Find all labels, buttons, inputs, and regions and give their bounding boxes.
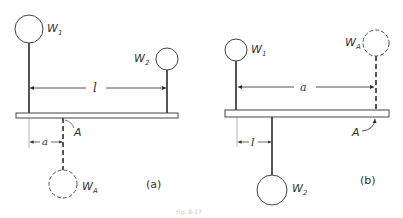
weight-circle-wa-b-dashed — [363, 30, 389, 56]
panel-label-a: (a) — [146, 178, 161, 191]
beam-b — [225, 110, 389, 117]
panel-label-b: (b) — [360, 174, 376, 187]
mass-wa-b: WA — [345, 30, 389, 110]
dim-label-l-b: l — [251, 136, 255, 149]
mass-w2: W2 — [134, 48, 178, 113]
dimension-l: l — [30, 81, 166, 95]
weight-circle-wa-dashed — [49, 170, 77, 198]
mass-w1-b: W1 — [225, 39, 266, 110]
point-a-marker: A — [65, 120, 82, 139]
dimension-l-b: l — [237, 117, 271, 149]
weight-circle-w2 — [156, 48, 178, 70]
beam-a — [16, 113, 178, 118]
weight-circle-w2-b — [257, 175, 287, 205]
panel-a: W1 W2 l WA A a — [15, 15, 178, 198]
dim-label-l: l — [93, 81, 97, 95]
dim-label-a-b: a — [300, 81, 307, 94]
mass-w2-b: W2 — [257, 117, 308, 205]
label-w1: W1 — [47, 22, 62, 37]
panel-b: W1 WA a W2 l A — [225, 30, 389, 205]
point-a-marker-b: A — [351, 119, 375, 139]
label-w2: W2 — [134, 52, 150, 67]
dimension-a: a — [29, 118, 62, 148]
label-wa-b: WA — [345, 36, 361, 51]
label-point-a: A — [73, 126, 82, 139]
dimension-a-b: a — [238, 81, 374, 94]
label-wa: WA — [82, 180, 98, 195]
mass-w1: W1 — [15, 15, 62, 113]
label-w1-b: W1 — [251, 43, 266, 58]
label-w2-b: W2 — [292, 182, 308, 197]
figure-caption: Fig. 8-17 — [176, 208, 202, 216]
beam-balance-diagram: W1 W2 l WA A a — [0, 0, 403, 218]
weight-circle-w1 — [15, 15, 43, 43]
label-point-a-b: A — [351, 126, 360, 139]
dim-label-a: a — [42, 136, 48, 147]
weight-circle-w1-b — [225, 39, 247, 61]
